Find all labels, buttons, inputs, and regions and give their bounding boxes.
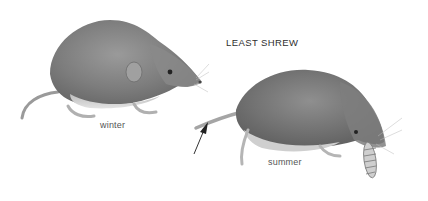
shrew-illustration: LEAST SHREW winter bbox=[0, 0, 428, 201]
winter-caption: winter bbox=[100, 120, 125, 130]
summer-caption: summer bbox=[268, 157, 302, 167]
illustration-title: LEAST SHREW bbox=[226, 37, 298, 48]
arrow-icon bbox=[190, 118, 220, 158]
winter-shrew-drawing bbox=[10, 14, 210, 124]
